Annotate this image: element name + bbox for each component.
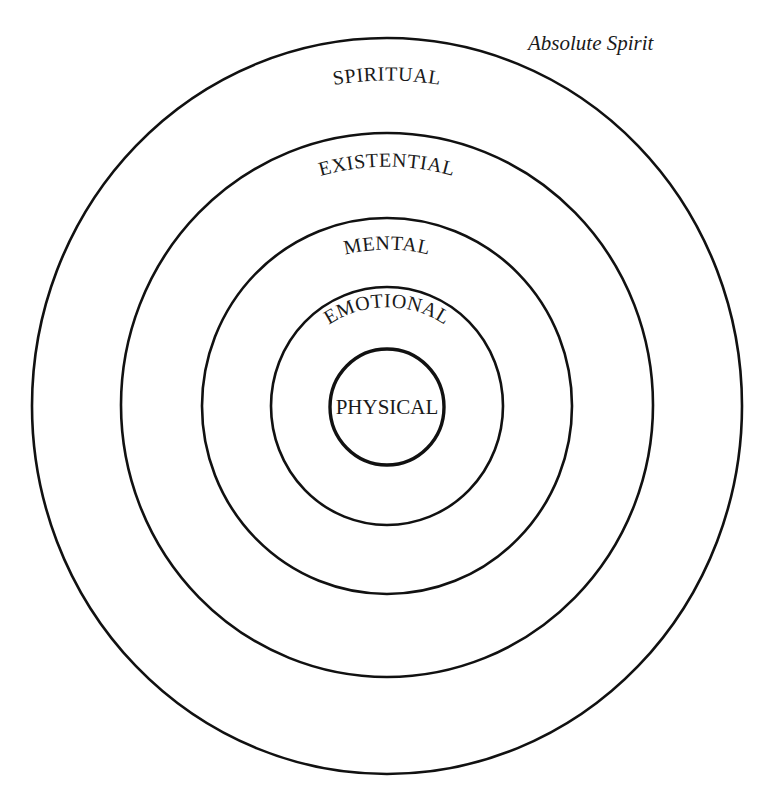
label-existential: EXISTENTIAL (316, 149, 458, 180)
label-mental: MENTAL (342, 231, 433, 258)
label-emotional: EMOTIONAL (320, 289, 455, 328)
absolute-spirit-title: Absolute Spirit (526, 31, 655, 55)
label-physical: PHYSICAL (336, 395, 439, 419)
concentric-levels-diagram: Absolute Spirit SPIRITUAL EXISTENTIAL ME… (0, 0, 762, 800)
label-spiritual: SPIRITUAL (331, 62, 443, 88)
